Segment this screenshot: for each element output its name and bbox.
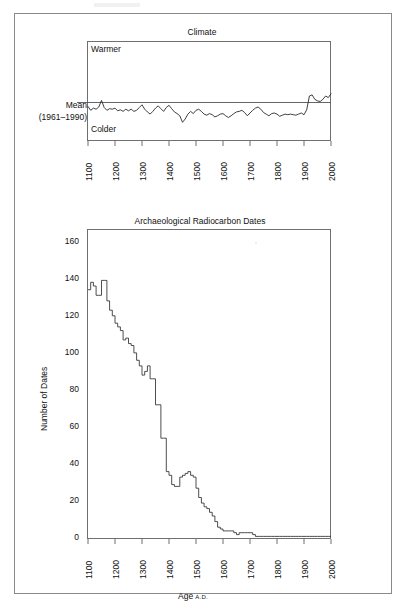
radiocarbon-panel: Archaeological Radiocarbon Dates Number … [15,199,391,595]
climate-xtick-1300: 1300 [138,162,148,181]
climate-xtick-1200: 1200 [111,162,121,181]
figure-container: Climate Mean (1961–1990) Warmer Colder [0,0,408,606]
climate-xtick-1100: 1100 [84,163,94,181]
radiocarbon-xtick-1400: 1400 [165,560,175,579]
radiocarbon-xtick-1800: 1800 [273,560,283,579]
radiocarbon-x-tickmarks [88,539,331,544]
climate-temperature-curve [88,94,331,123]
radiocarbon-plot-svg [15,199,391,595]
climate-xtick-1800: 1800 [273,162,283,181]
radiocarbon-xtick-2000: 2000 [327,560,337,579]
radiocarbon-xtick-1600: 1600 [219,560,229,579]
radiocarbon-xtick-1200: 1200 [111,560,121,579]
radiocarbon-xtick-1900: 1900 [300,560,310,579]
page-top-artifact [94,3,140,7]
radiocarbon-xtick-1700: 1700 [246,560,256,579]
climate-panel: Climate Mean (1961–1990) Warmer Colder [15,14,391,186]
radiocarbon-x-axis-label-main: Age [178,591,193,601]
radiocarbon-xtick-1100: 1100 [84,561,94,579]
radiocarbon-x-axis-label: Age A.D. [178,591,208,601]
scan-speck [255,242,256,243]
climate-xtick-1500: 1500 [192,162,202,181]
radiocarbon-step-curve [88,280,331,536]
figure-frame: Climate Mean (1961–1990) Warmer Colder [14,13,392,594]
climate-xtick-1900: 1900 [300,162,310,181]
climate-xtick-1600: 1600 [219,162,229,181]
climate-plot-svg [15,14,391,186]
climate-xtick-1400: 1400 [165,162,175,181]
radiocarbon-xtick-1500: 1500 [192,560,202,579]
radiocarbon-x-axis-label-era: A.D. [195,594,207,600]
radiocarbon-xtick-1300: 1300 [138,560,148,579]
climate-x-tickmarks [88,141,331,146]
climate-xtick-2000: 2000 [327,162,337,181]
climate-xtick-1700: 1700 [246,162,256,181]
